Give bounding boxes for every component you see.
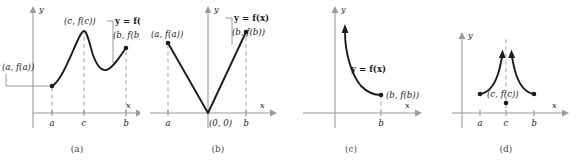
panel-d-point-b <box>532 92 537 97</box>
panel-b-label-origin: (0, 0) <box>209 118 232 128</box>
panel-c-point-b <box>379 93 384 98</box>
panel-b-tick-label-a: a <box>166 118 171 128</box>
panel-b-x-axis-label: x <box>260 100 265 110</box>
panel-c-label-function: y = f(x) <box>350 64 386 74</box>
panel-b-label-point-b: (b, f(b)) <box>232 27 265 37</box>
figure-container: y x a c b (a, f(a)) (c, f(c)) y = f(x) <box>0 0 577 160</box>
panel-c-label-point-b: (b, f(b)) <box>386 90 419 100</box>
panel-b-y-axis-label: y <box>213 4 219 14</box>
panel-c-tick-label-b: b <box>379 118 384 128</box>
panel-b-x-axis-arrow <box>270 110 277 117</box>
panel-d-caption: (d) <box>500 144 513 154</box>
panel-a-label-function: y = f(x) <box>114 16 140 26</box>
panel-a-point-a <box>50 84 55 89</box>
panel-c-y-axis-arrow <box>332 6 339 13</box>
panel-c-x-axis-arrow <box>415 110 422 117</box>
panel-c-y-axis-label: y <box>340 4 346 14</box>
panel-b-caption: (b) <box>212 144 225 154</box>
panel-b-label-point-a: (a, f(a)) <box>151 29 183 39</box>
panel-a-x-axis-label: x <box>126 100 131 110</box>
panel-a-leader-left <box>6 74 50 86</box>
panel-c: y x b y = f(x) (b, f(b)) (c) <box>285 0 430 160</box>
panel-b-point-a <box>166 41 171 46</box>
panel-c-curve-arrow-up <box>342 24 349 33</box>
panel-b-dashed-guides <box>168 32 246 113</box>
panel-a: y x a c b (a, f(a)) (c, f(c)) y = f(x) <box>0 0 140 160</box>
panel-a-label-point-a: (a, f(a)) <box>2 62 34 72</box>
panel-c-caption: (c) <box>345 144 357 154</box>
panel-d: y x a c b (c, f(c)) (d) <box>430 0 577 160</box>
panel-d-axes <box>452 32 569 128</box>
panel-a-label-point-b: (b, f(b)) <box>113 30 140 40</box>
panel-d-y-axis-label: y <box>467 30 473 40</box>
panel-b-y-axis-arrow <box>205 6 212 13</box>
panel-a-tick-label-b: b <box>124 118 129 128</box>
panel-d-tick-label-c: c <box>504 118 509 128</box>
panel-a-leader-function <box>107 21 113 63</box>
panel-a-tick-label-c: c <box>82 118 87 128</box>
panel-a-label-point-c: (c, f(c)) <box>64 16 96 26</box>
panel-d-tick-label-a: a <box>478 118 483 128</box>
panel-d-label-point-c: (c, f(c)) <box>487 89 519 99</box>
panel-a-point-b <box>124 46 129 51</box>
panel-a-y-axis-arrow <box>30 6 37 13</box>
panel-d-x-axis-arrow <box>562 110 569 117</box>
panel-d-x-axis-label: x <box>552 100 557 110</box>
panel-b-curve <box>168 32 246 113</box>
panel-d-point-c <box>504 101 509 106</box>
panel-b-label-function: y = f(x) <box>233 13 269 23</box>
panel-d-y-axis-arrow <box>459 32 466 39</box>
panel-a-y-axis-label: y <box>38 4 44 14</box>
panel-d-curve-right-arrow-up <box>508 50 515 59</box>
panel-d-tick-label-b: b <box>532 118 537 128</box>
panel-b-tick-label-b: b <box>244 118 249 128</box>
panel-b-axes <box>150 6 277 128</box>
panel-b: y x a b (a, f(a)) (0, 0) y = f(x) (b, f(… <box>140 0 285 160</box>
panel-d-point-a <box>478 92 483 97</box>
panel-a-caption: (a) <box>71 144 83 154</box>
panel-a-tick-label-a: a <box>50 118 55 128</box>
panel-c-x-axis-label: x <box>405 100 410 110</box>
panel-d-curve-left-arrow-up <box>499 50 506 59</box>
